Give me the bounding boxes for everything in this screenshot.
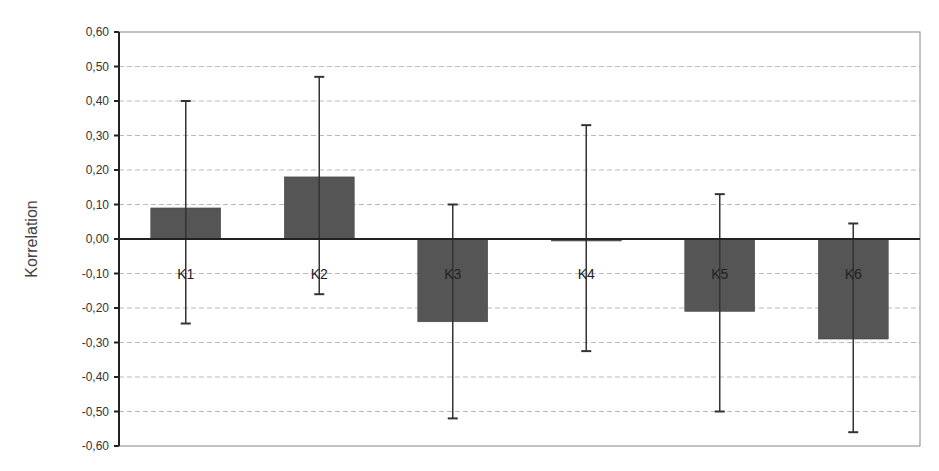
error-bars xyxy=(181,77,859,432)
category-label: K5 xyxy=(711,266,728,282)
y-tick-label: 0,50 xyxy=(86,60,110,74)
y-tick-label: 0,10 xyxy=(86,198,110,212)
y-tick-label: -0,30 xyxy=(82,336,110,350)
y-tick-label: -0,10 xyxy=(82,267,110,281)
y-tick-label: -0,50 xyxy=(82,405,110,419)
y-tick-label: 0,20 xyxy=(86,163,110,177)
category-label: K3 xyxy=(444,266,461,282)
y-tick-label: -0,20 xyxy=(82,301,110,315)
y-axis-ticks: 0,600,500,400,300,200,100,00-0,10-0,20-0… xyxy=(82,25,119,453)
category-label: K2 xyxy=(311,266,328,282)
y-tick-label: 0,30 xyxy=(86,129,110,143)
bar-chart: 0,600,500,400,300,200,100,00-0,10-0,20-0… xyxy=(0,0,939,471)
y-tick-label: -0,60 xyxy=(82,439,110,453)
bars xyxy=(151,177,889,339)
category-label: K1 xyxy=(177,266,194,282)
y-tick-label: 0,60 xyxy=(86,25,110,39)
y-tick-label: 0,40 xyxy=(86,94,110,108)
category-label: K6 xyxy=(845,266,862,282)
category-label: K4 xyxy=(578,266,595,282)
y-tick-label: -0,40 xyxy=(82,370,110,384)
y-tick-label: 0,00 xyxy=(86,232,110,246)
y-axis-title: Korrelation xyxy=(23,200,40,277)
